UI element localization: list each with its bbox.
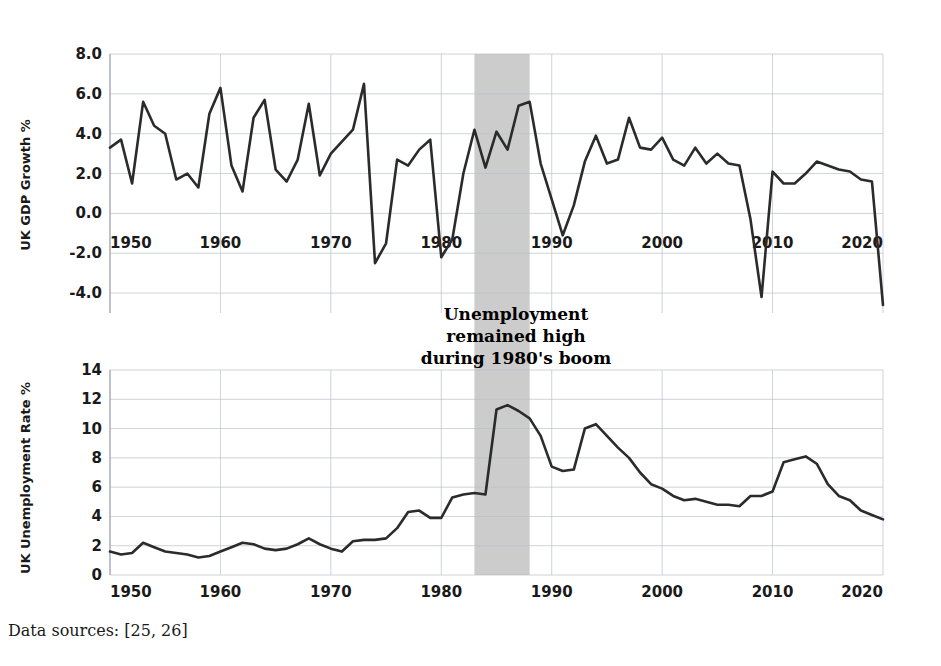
annotation-line-2: remained high: [446, 326, 585, 346]
dual-line-chart: 8.06.04.02.00.0-2.0-4.0 1950196019701980…: [0, 0, 941, 666]
unemployment-x-tick: 1990: [531, 583, 573, 601]
gdp-y-tick: 0.0: [75, 204, 102, 222]
unemployment-y-tick: 0: [92, 566, 102, 584]
gdp-y-tick: -2.0: [69, 244, 102, 262]
unemployment-y-tick: 14: [81, 361, 102, 379]
gdp-y-tick: -4.0: [69, 284, 102, 302]
unemployment-x-tick: 2000: [641, 583, 683, 601]
annotation-unemployment-remained-high: Unemployment remained high during 1980's…: [421, 304, 611, 368]
annotation-line-3: during 1980's boom: [421, 348, 611, 368]
unemployment-y-axis-title: UK Unemployment Rate %: [18, 382, 33, 574]
gdp-x-tick: 1950: [110, 234, 152, 252]
figure-container: 8.06.04.02.00.0-2.0-4.0 1950196019701980…: [0, 0, 941, 666]
gdp-y-axis-title: UK GDP Growth %: [18, 119, 33, 251]
gdp-x-tick: 2010: [752, 234, 794, 252]
annotation-line-1: Unemployment: [444, 304, 589, 324]
unemployment-y-tick: 4: [92, 507, 102, 525]
unemployment-x-tick: 1960: [200, 583, 242, 601]
unemployment-y-tick: 10: [81, 420, 102, 438]
gdp-y-tick: 8.0: [75, 45, 102, 63]
gdp-x-tick: 1960: [200, 234, 242, 252]
gdp-x-tick: 2000: [641, 234, 683, 252]
figure-caption: Data sources: [25, 26]: [8, 621, 188, 640]
unemployment-y-tick: 12: [81, 390, 102, 408]
gdp-x-tick: 1990: [531, 234, 573, 252]
gdp-x-tick: 1970: [310, 234, 352, 252]
unemployment-x-tick: 1980: [420, 583, 462, 601]
unemployment-y-tick: 6: [92, 478, 102, 496]
gdp-y-tick: 4.0: [75, 125, 102, 143]
unemployment-y-tick: 2: [92, 537, 102, 555]
unemployment-x-tick: 1950: [110, 583, 152, 601]
gdp-y-tick: 2.0: [75, 165, 102, 183]
unemployment-x-tick: 1970: [310, 583, 352, 601]
gdp-y-tick: 6.0: [75, 85, 102, 103]
unemployment-y-tick: 8: [92, 449, 102, 467]
unemployment-x-tick: 2010: [752, 583, 794, 601]
unemployment-x-tick: 2020: [841, 583, 883, 601]
